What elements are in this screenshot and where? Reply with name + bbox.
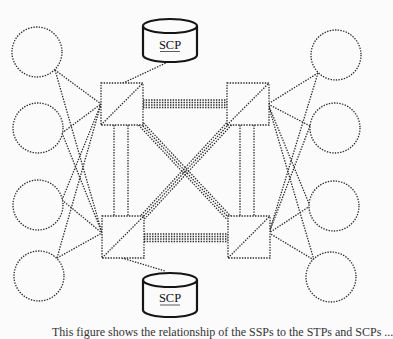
end-node-circle (14, 251, 64, 301)
end-node-circle (310, 103, 360, 153)
scp-bottom-label: SCP (159, 291, 181, 305)
end-nodes-right (306, 30, 361, 302)
access-links-left (55, 70, 102, 258)
end-node-circle (13, 180, 63, 230)
scp-top-link (121, 62, 168, 84)
mate-link-left (114, 125, 128, 216)
stp-bottom-left (102, 216, 144, 258)
bridge-link-top (143, 100, 227, 108)
bridge-link-bottom (144, 234, 228, 242)
figure-caption: This figure shows the relationship of th… (52, 325, 382, 339)
end-node-circle (13, 103, 63, 153)
cross-link-tr-bl (140, 123, 232, 219)
end-node-circle (311, 30, 361, 80)
scp-database-top: SCP (143, 19, 197, 62)
access-links-right (268, 73, 318, 260)
stp-top-right (227, 83, 269, 125)
scp-top-label: SCP (159, 38, 181, 52)
end-node-circle (309, 181, 359, 231)
stp-bottom-right (228, 216, 270, 258)
end-nodes-left (12, 27, 64, 301)
stp-top-left (101, 83, 143, 125)
end-node-circle (12, 27, 62, 77)
cross-link-tl-br (139, 123, 232, 219)
end-node-circle (306, 252, 356, 302)
mate-link-right (240, 125, 254, 216)
scp-database-bottom: SCP (143, 273, 197, 317)
scp-bottom-link (122, 258, 165, 271)
